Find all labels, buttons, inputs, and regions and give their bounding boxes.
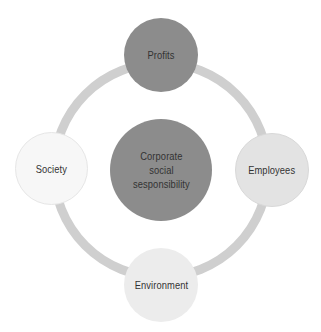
node-label-society: Society <box>36 162 67 176</box>
center-line-1: Corporate <box>133 149 190 163</box>
node-profits: Profits <box>124 18 198 92</box>
node-label-environment: Environment <box>134 278 187 292</box>
node-society: Society <box>15 132 88 205</box>
center-node-csr: Corporate social sesponsibility <box>110 119 212 221</box>
center-line-3: sesponsibility <box>133 177 190 191</box>
csr-diagram: Corporate social sesponsibility Profits … <box>0 0 321 332</box>
node-label-profits: Profits <box>147 48 174 62</box>
center-line-2: social <box>133 163 190 177</box>
node-employees: Employees <box>235 133 309 207</box>
node-label-employees: Employees <box>248 163 295 177</box>
node-environment: Environment <box>124 248 198 322</box>
